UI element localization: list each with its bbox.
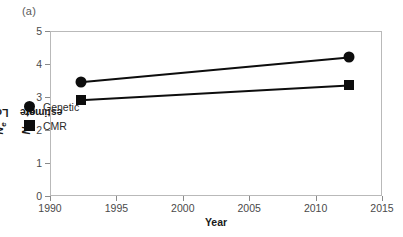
plot-area: 012345 199019952000200520102015 [50, 31, 382, 196]
series-line-genetic [81, 57, 349, 82]
x-tick-mark [382, 196, 383, 201]
x-tick-mark [316, 196, 317, 201]
data-point-genetic [75, 77, 86, 88]
series-line-cmr [81, 85, 349, 100]
y-axis-subscript-e: e [0, 123, 8, 127]
legend-item-cmr: CMR [24, 116, 79, 135]
legend-label-cmr: CMR [43, 120, 67, 132]
panel-label: (a) [22, 5, 36, 17]
x-tick-label: 2015 [370, 202, 393, 214]
legend-item-genetic: Genetic [24, 97, 79, 116]
series-lines [50, 31, 382, 196]
x-tick-label: 1995 [105, 202, 128, 214]
x-tick-label: 2010 [304, 202, 327, 214]
chart-legend: Genetic CMR [24, 97, 79, 135]
data-point-genetic [343, 52, 354, 63]
y-axis-symbol-ne: N [0, 127, 5, 135]
legend-label-genetic: Genetic [43, 101, 79, 113]
x-tick-mark [50, 196, 51, 201]
data-point-cmr [344, 80, 354, 90]
x-tick-label: 2000 [171, 202, 194, 214]
x-tick-mark [249, 196, 250, 201]
circle-marker-icon [24, 101, 35, 112]
figure-panel-a: (a) Log Ne or Nb estimate 012345 1990199… [0, 0, 403, 237]
y-tick-label: 0 [36, 190, 42, 202]
y-axis-title: Log Ne or Nb estimate [6, 31, 22, 196]
y-tick-label: 1 [36, 157, 42, 169]
y-tick-label: 5 [36, 25, 42, 37]
x-tick-mark [183, 196, 184, 201]
x-tick-label: 1990 [38, 202, 61, 214]
x-tick-label: 2005 [238, 202, 261, 214]
y-tick-label: 4 [36, 58, 42, 70]
x-tick-mark [116, 196, 117, 201]
x-axis-title: Year [50, 216, 382, 228]
square-marker-icon [24, 120, 35, 131]
